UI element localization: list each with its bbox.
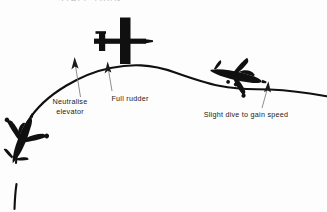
diving-aircraft-wingtip	[241, 93, 246, 98]
climbing-aircraft-tailplane-upper	[2, 148, 15, 159]
knife-edge-aircraft-fin	[96, 31, 107, 34]
neutralise-elevator-arrowhead	[71, 57, 78, 69]
diving-aircraft-tailplane	[214, 59, 222, 70]
label-neutralise-elevator-line2: elevator	[56, 107, 84, 116]
knife-edge-aircraft-wing	[120, 18, 131, 65]
label-neutralise-elevator: Neutralise elevator	[41, 97, 99, 116]
knife-edge-aircraft-spinner	[146, 39, 153, 43]
diving-aircraft-spinner	[262, 80, 267, 84]
flight-path-group	[15, 65, 327, 209]
knife-edge-aircraft	[94, 18, 153, 65]
label-full-rudder: Full rudder	[103, 94, 157, 104]
label-neutralise-elevator-line1: Neutralise	[53, 97, 88, 106]
knife-edge-aircraft-tailplane	[99, 32, 105, 51]
diving-aircraft	[206, 51, 270, 102]
aerobatic-maneuver-figure: STALL TURN	[0, 0, 327, 212]
diving-aircraft-gear-left	[226, 80, 231, 85]
flight-path-lower-segment	[15, 184, 17, 209]
full-rudder-leader-line	[109, 70, 113, 91]
climbing-aircraft-lower-wingtip	[44, 133, 50, 139]
neutralise-elevator-leader-line	[76, 66, 81, 97]
label-slight-dive-to-gain-speed: Slight dive to gain speed	[190, 110, 302, 120]
slight-dive-leader-line	[262, 90, 267, 108]
